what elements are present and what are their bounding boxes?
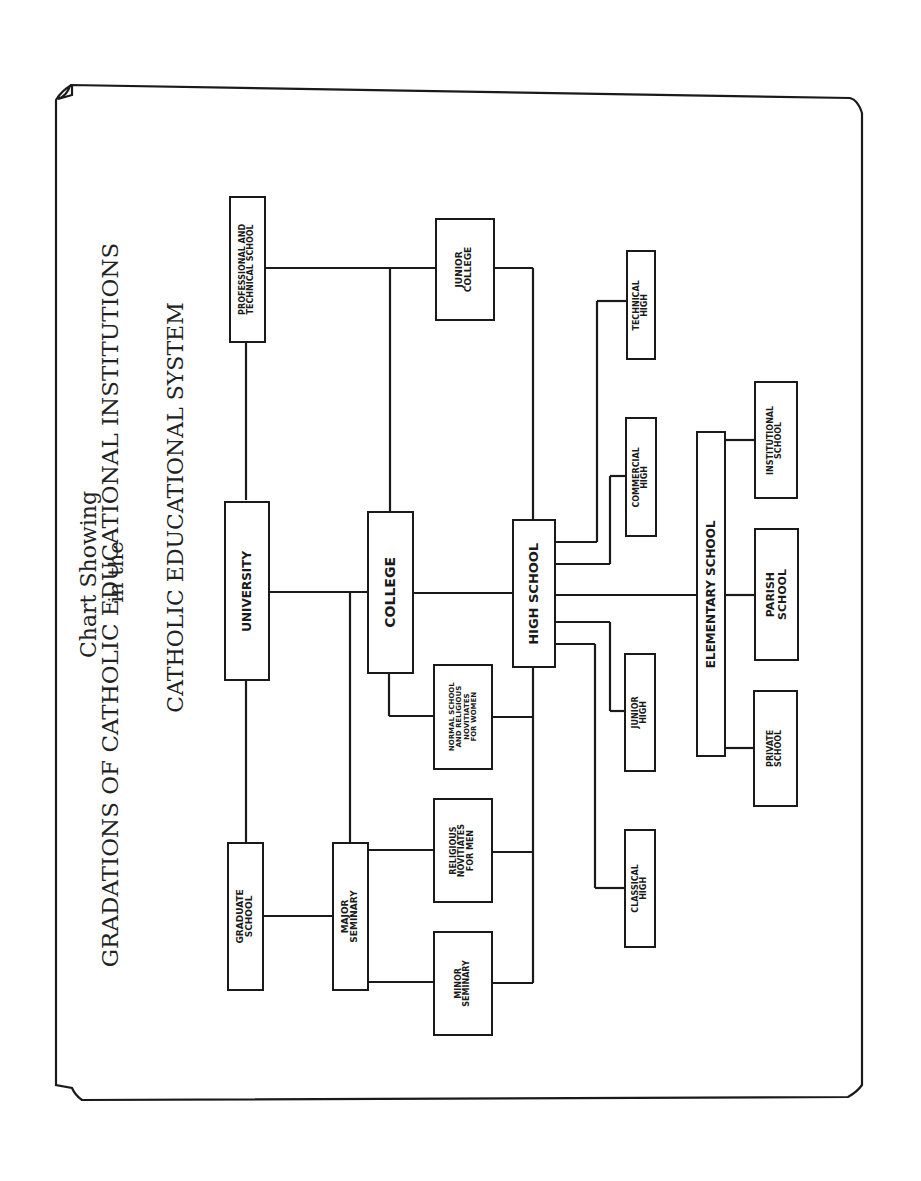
node-label: MAJOR SEMINARY	[341, 890, 360, 942]
node-label: INSTITUTIONAL SCHOOL	[768, 405, 785, 474]
node-professional-technical-school: PROFESSIONAL AND TECHNICAL SCHOOL	[229, 196, 266, 343]
node-junior-college: JUNIOR COLLEGE	[435, 218, 495, 321]
node-private-school: PRIVATE SCHOOL	[753, 690, 798, 807]
node-college: COLLEGE	[367, 511, 414, 674]
node-institutional-school: INSTITUTIONAL SCHOOL	[754, 381, 798, 499]
node-label: COLLEGE	[383, 557, 398, 628]
node-label: ELEMENTARY SCHOOL	[705, 520, 718, 668]
node-technical-high: TECHNICAL HIGH	[626, 250, 656, 360]
node-label: PRIVATE SCHOOL	[767, 730, 784, 767]
chart-title-line3: in the	[104, 512, 128, 632]
node-classical-high: CLASSICAL HIGH	[624, 829, 656, 948]
node-junior-high: JUNIOR HIGH	[624, 653, 656, 772]
node-religious-novitiates-men: RELIGIOUS NOVITIATES FOR MEN	[433, 798, 493, 903]
node-minor-seminary: MINOR SEMINARY	[433, 931, 493, 1036]
chart-title-line4: CATHOLIC EDUCATIONAL SYSTEM	[163, 208, 188, 808]
node-label: PROFESSIONAL AND TECHNICAL SCHOOL	[239, 224, 256, 315]
diagram-page: Chart Showing GRADATIONS OF CATHOLIC EDU…	[0, 0, 921, 1181]
node-label: UNIVERSITY	[241, 551, 254, 632]
node-elementary-school: ELEMENTARY SCHOOL	[696, 431, 726, 757]
node-label: HIGH SCHOOL	[527, 543, 541, 645]
node-label: JUNIOR HIGH	[632, 696, 649, 728]
node-label: JUNIOR COLLEGE	[456, 247, 475, 292]
node-label: RELIGIOUS NOVITIATES FOR MEN	[450, 824, 475, 877]
node-normal-school-women: NORMAL SCHOOL AND RELIGIOUS NOVITIATES F…	[433, 664, 493, 770]
node-commercial-high: COMMERCIAL HIGH	[625, 417, 657, 537]
node-label: MINOR SEMINARY	[455, 960, 472, 1007]
node-label: NORMAL SCHOOL AND RELIGIOUS NOVITIATES F…	[448, 683, 477, 752]
node-label: COMMERCIAL HIGH	[633, 447, 650, 507]
node-graduate-school: GRADUATE SCHOOL	[227, 842, 264, 991]
node-major-seminary: MAJOR SEMINARY	[332, 842, 369, 991]
node-label: PARISH SCHOOL	[765, 569, 788, 620]
node-label: GRADUATE SCHOOL	[236, 889, 255, 943]
node-high-school: HIGH SCHOOL	[512, 519, 556, 668]
node-label: TECHNICAL HIGH	[633, 280, 650, 330]
node-parish-school: PARISH SCHOOL	[754, 528, 799, 661]
node-label: CLASSICAL HIGH	[632, 864, 649, 912]
node-university: UNIVERSITY	[224, 501, 270, 681]
